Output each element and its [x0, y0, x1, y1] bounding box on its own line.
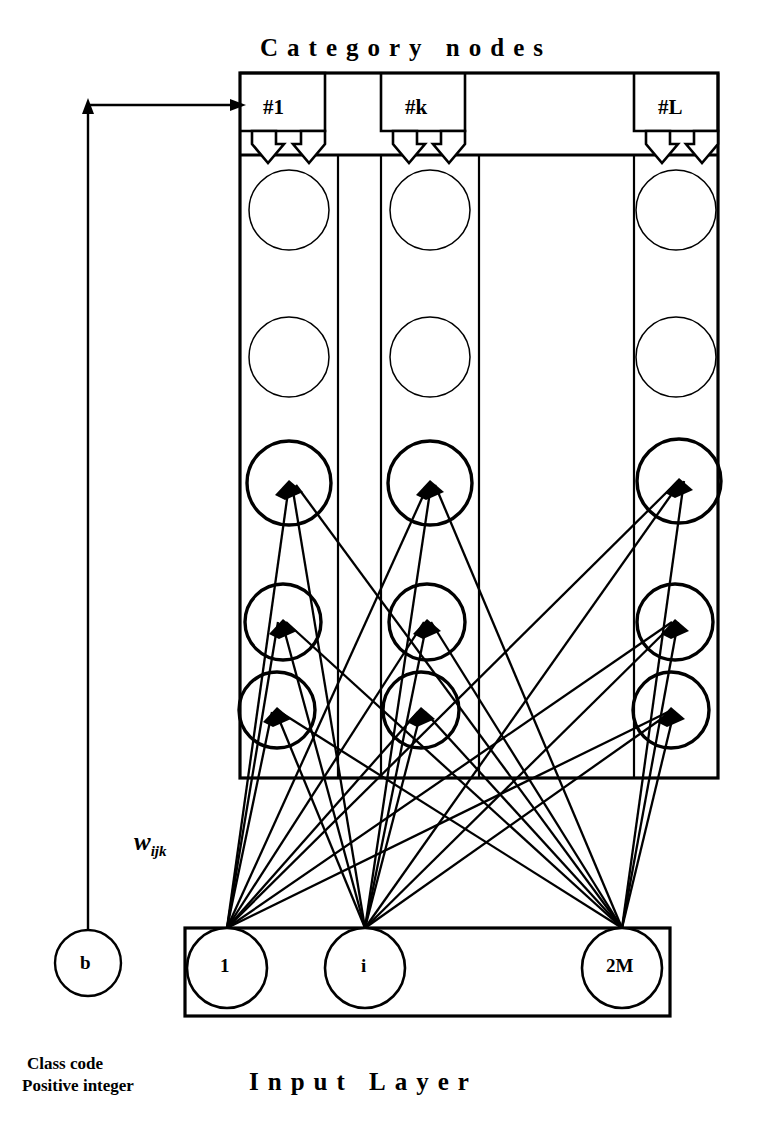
input-node-label-2M: 2M: [606, 955, 633, 977]
weight-label-base: w: [134, 828, 151, 855]
diagram-canvas: Category nodes #1 #k #L b 1 i 2M wijk Cl…: [0, 0, 764, 1146]
category-nodes-title: Category nodes: [260, 34, 552, 62]
node-cL-r2: [636, 317, 716, 397]
category-hollow-arrows: [252, 131, 718, 163]
node-c1-r1: [249, 170, 329, 250]
node-c1-r2: [249, 317, 329, 397]
conn-1-ckr4: [227, 622, 424, 928]
conn-i-ckr4: [365, 622, 427, 928]
category-nodes-thin: [249, 170, 716, 397]
arrowhead-cLr3: [665, 478, 693, 498]
node-ck-r1: [390, 170, 470, 250]
conn-1-c1r4: [227, 622, 278, 928]
conn-2M-ckr3: [435, 485, 622, 928]
input-layer-nodes: [187, 928, 662, 1008]
input-layer-title: Input Layer: [249, 1068, 478, 1096]
category-header-subboxes: [240, 73, 718, 131]
conn-2M-c1r5: [280, 712, 622, 928]
arrowhead-ckr5: [407, 707, 435, 727]
hollow-arrow-1b: [293, 131, 325, 163]
feedback-path: [82, 98, 246, 930]
hollow-arrow-ka: [393, 131, 425, 163]
hollow-arrow-1a: [252, 131, 284, 163]
conn-2M-cLr3: [622, 481, 684, 928]
weight-label: wijk: [134, 828, 167, 860]
hollow-arrow-Lb: [686, 131, 718, 163]
arrowhead-c1r3: [275, 480, 303, 500]
arrowhead-ckr4: [413, 619, 441, 639]
bias-caption-line2: Positive integer: [22, 1075, 134, 1097]
bias-node-label: b: [80, 952, 91, 974]
hollow-arrow-La: [646, 131, 678, 163]
bias-caption-line1: Class code: [27, 1053, 103, 1075]
category-header-label-1: #1: [263, 95, 284, 120]
conn-2M-c1r4: [286, 622, 622, 928]
input-node-label-1: 1: [220, 955, 230, 977]
feedback-right-arrowhead: [230, 99, 246, 111]
conn-1-ckr5: [227, 712, 418, 928]
weight-connections: [227, 481, 684, 928]
arrowhead-c1r4: [269, 619, 297, 639]
conn-2M-cLr4: [622, 622, 678, 928]
input-node-label-i: i: [361, 955, 366, 977]
hollow-arrow-kb: [433, 131, 465, 163]
conn-i-c1r3: [292, 485, 365, 928]
diagram-svg: [0, 0, 764, 1146]
node-cL-r1: [636, 170, 716, 250]
category-header-label-k: #k: [405, 95, 427, 120]
conn-2M-ckr4: [431, 622, 622, 928]
conn-2M-ckr5: [425, 712, 622, 928]
category-header-label-L: #L: [658, 95, 683, 120]
node-ck-r2: [390, 317, 470, 397]
conn-1-cLr3: [227, 481, 678, 928]
arrowhead-c1r5: [263, 707, 291, 727]
weight-label-subscript: ijk: [151, 843, 167, 859]
